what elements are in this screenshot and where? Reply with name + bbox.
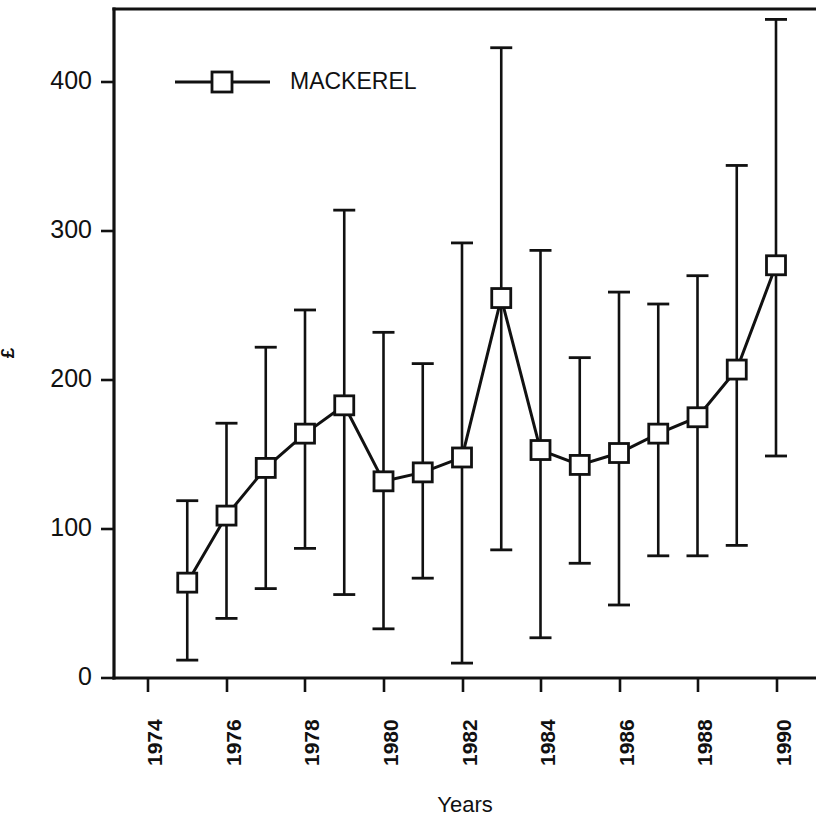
x-tick-label-1980: 1980 [379, 719, 402, 766]
y-tick-label-300: 300 [50, 215, 92, 243]
legend-label-mackerel: MACKEREL [290, 68, 417, 94]
data-point-marker [767, 256, 786, 275]
x-tick-label-1986: 1986 [615, 719, 638, 766]
x-tick-label-1976: 1976 [222, 719, 245, 766]
chart-figure: 400 300 200 100 0 £ 1974 1976 1978 1980 … [0, 0, 816, 832]
legend: MACKEREL [175, 68, 417, 94]
y-tick-label-0: 0 [78, 662, 92, 690]
data-point-marker [727, 360, 746, 379]
x-axis-ticks [148, 678, 777, 692]
error-bars [176, 19, 787, 663]
y-axis-title: £ [0, 347, 18, 358]
data-point-marker [492, 289, 511, 308]
x-tick-label-1978: 1978 [300, 719, 323, 766]
data-point-marker [374, 472, 393, 491]
y-axis-ticks [101, 82, 114, 678]
y-tick-label-400: 400 [50, 66, 92, 94]
data-point-marker [610, 444, 629, 463]
data-point-marker [335, 396, 354, 415]
x-axis-title: Years [437, 792, 492, 817]
data-point-marker [217, 506, 236, 525]
data-point-marker [531, 441, 550, 460]
data-point-markers [178, 256, 786, 592]
data-point-marker [570, 455, 589, 474]
x-tick-label-1988: 1988 [693, 719, 716, 766]
x-tick-label-1982: 1982 [458, 719, 481, 766]
x-axis-tick-labels: 1974 1976 1978 1980 1982 1984 1986 1988 … [143, 719, 795, 766]
x-tick-label-1984: 1984 [536, 719, 559, 766]
y-tick-label-100: 100 [50, 513, 92, 541]
x-tick-label-1974: 1974 [143, 719, 166, 766]
x-tick-label-1990: 1990 [772, 719, 795, 766]
data-point-marker [178, 573, 197, 592]
data-point-marker [453, 448, 472, 467]
mackerel-line-chart: 400 300 200 100 0 £ 1974 1976 1978 1980 … [0, 0, 816, 832]
data-point-marker [413, 463, 432, 482]
y-tick-label-200: 200 [50, 364, 92, 392]
data-point-marker [688, 408, 707, 427]
data-point-marker [256, 458, 275, 477]
data-point-marker [296, 424, 315, 443]
y-axis-tick-labels: 400 300 200 100 0 [50, 66, 92, 690]
legend-marker-icon [212, 72, 232, 92]
data-point-marker [649, 424, 668, 443]
